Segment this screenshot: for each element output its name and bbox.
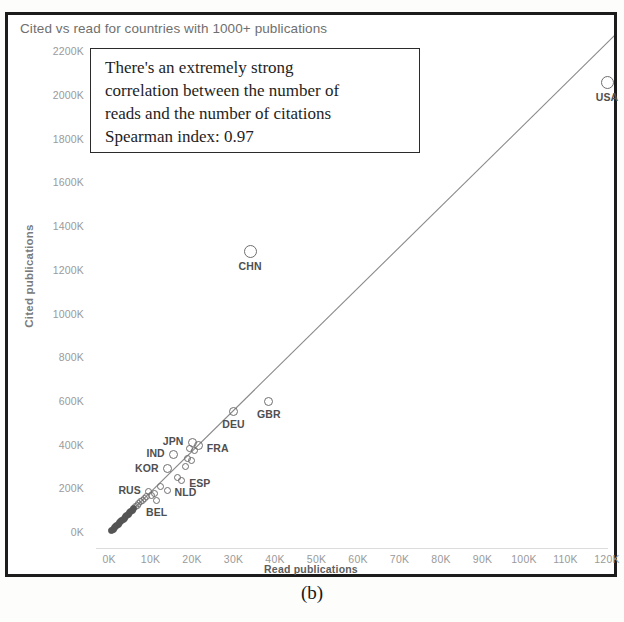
x-axis-title: Read publications: [8, 563, 614, 575]
data-point-ind: [169, 450, 178, 459]
data-point-jpn: [188, 438, 197, 447]
point-label-nld: NLD: [175, 486, 197, 498]
point-label-usa: USA: [596, 91, 618, 103]
point-label-ind: IND: [146, 447, 164, 459]
point-label-jpn: JPN: [163, 435, 184, 447]
data-point-usa: [601, 76, 614, 89]
point-label-bel: BEL: [146, 506, 167, 518]
annotation-line-1: There's an extremely strong: [105, 56, 419, 79]
plot-area: Cited vs read for countries with 1000+ p…: [8, 15, 614, 574]
data-point-nld: [164, 487, 171, 494]
point-label-deu: DEU: [222, 418, 244, 430]
data-point-bel: [153, 497, 160, 504]
annotation-line-2: correlation between the number of: [105, 79, 419, 102]
point-label-gbr: GBR: [257, 408, 281, 420]
point-label-fra: FRA: [207, 442, 229, 454]
annotation-line-4: Spearman index: 0.97: [105, 125, 419, 148]
point-label-chn: CHN: [239, 260, 262, 272]
data-point-rus: [145, 488, 152, 495]
annotation-callout: There's an extremely strong correlation …: [90, 48, 420, 153]
figure-frame: Cited vs read for countries with 1000+ p…: [5, 12, 617, 577]
annotation-line-3: reads and the number of citations: [105, 102, 419, 125]
data-point-kor: [163, 464, 172, 473]
point-label-rus: RUS: [118, 484, 140, 496]
point-label-kor: KOR: [135, 462, 159, 474]
figure-caption: (b): [0, 582, 624, 604]
scanned-page: Cited vs read for countries with 1000+ p…: [0, 0, 624, 622]
data-point-chn: [244, 245, 257, 258]
